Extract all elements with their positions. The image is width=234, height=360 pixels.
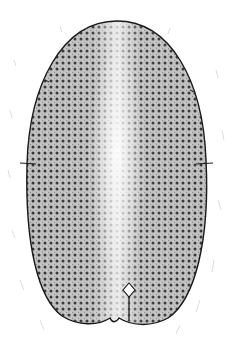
specimen-body (0, 0, 234, 360)
specimen-illustration (0, 0, 234, 360)
